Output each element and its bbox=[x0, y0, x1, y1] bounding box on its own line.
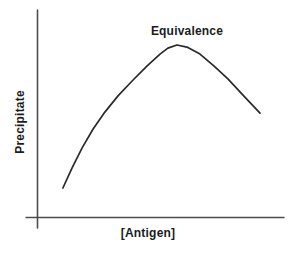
y-axis-label: Precipitate bbox=[13, 90, 27, 154]
chart-canvas bbox=[0, 0, 294, 259]
x-axis-label: [Antigen] bbox=[121, 226, 175, 240]
equivalence-annotation: Equivalence bbox=[151, 24, 223, 38]
precipitin-curve-figure: Equivalence Precipitate [Antigen] bbox=[0, 0, 294, 259]
precipitin-curve bbox=[63, 45, 260, 188]
